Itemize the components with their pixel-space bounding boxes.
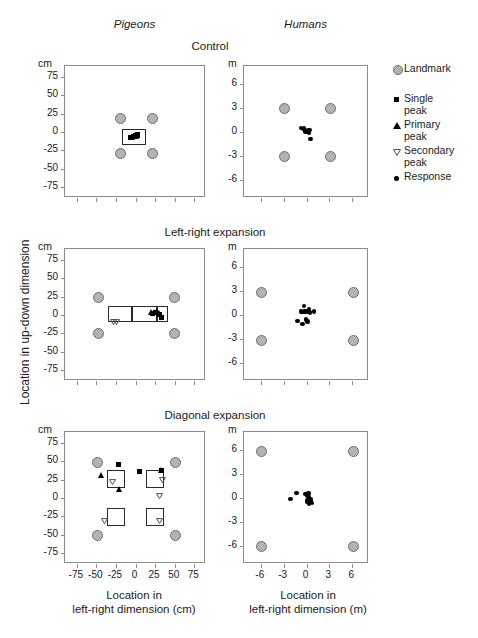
y-tick-pigeons-diagonal-expansion-2 bbox=[61, 480, 65, 481]
x-axis-title-left-line1: Location in bbox=[106, 589, 162, 601]
y-tick-pigeons-control-5 bbox=[61, 169, 65, 170]
x-tick-humans-diagonal-expansion-2 bbox=[307, 564, 308, 568]
response-marker-humans-left-right-expansion-12 bbox=[305, 319, 310, 324]
landmark-marker-humans-diagonal-expansion-3 bbox=[348, 541, 359, 552]
y-tick-label-pigeons-left-right-expansion-6: -75 bbox=[24, 364, 58, 374]
y-tick-label-pigeons-diagonal-expansion-5: -50 bbox=[24, 529, 58, 539]
landmark-marker-humans-diagonal-expansion-1 bbox=[348, 446, 359, 457]
column-title-pigeons: Pigeons bbox=[64, 18, 205, 30]
y-tick-pigeons-diagonal-expansion-0 bbox=[61, 443, 65, 444]
y-tick-label-pigeons-left-right-expansion-4: -25 bbox=[24, 327, 58, 337]
figure-root: Pigeons Humans Control Left-right expans… bbox=[0, 0, 478, 638]
x-axis-title-right-line1: Location in bbox=[280, 589, 336, 601]
y-tick-humans-control-0 bbox=[240, 84, 244, 85]
secondary-peak-marker-pigeons-diagonal-expansion-3 bbox=[101, 510, 108, 516]
response-marker-humans-diagonal-expansion-12 bbox=[310, 501, 315, 506]
y-tick-label-humans-control-2: 0 bbox=[203, 126, 237, 136]
legend-label-1-line2: peak bbox=[404, 104, 427, 116]
plot-panel-pigeons-left-right-expansion bbox=[64, 248, 205, 380]
y-tick-humans-left-right-expansion-3 bbox=[240, 339, 244, 340]
secondary-peak-marker-pigeons-diagonal-expansion-4 bbox=[156, 510, 163, 516]
y-tick-humans-diagonal-expansion-0 bbox=[240, 450, 244, 451]
x-tick-pigeons-control-0 bbox=[77, 198, 78, 202]
y-tick-pigeons-left-right-expansion-0 bbox=[61, 260, 65, 261]
x-tick-humans-diagonal-expansion-1 bbox=[284, 564, 285, 568]
landmark-marker-humans-left-right-expansion-2 bbox=[256, 335, 267, 346]
legend-label-3-line2: peak bbox=[404, 156, 427, 168]
response-marker-humans-control-10 bbox=[307, 131, 312, 136]
x-axis-title-right-line2: left-right dimension (m) bbox=[249, 603, 367, 615]
x-tick-humans-diagonal-expansion-0 bbox=[261, 564, 262, 568]
secondary-peak-marker-pigeons-diagonal-expansion-0 bbox=[109, 471, 116, 477]
x-tick-humans-control-4 bbox=[352, 198, 353, 202]
y-tick-pigeons-left-right-expansion-4 bbox=[61, 333, 65, 334]
y-tick-label-pigeons-control-5: -50 bbox=[24, 163, 58, 173]
legend-label-2-line2: peak bbox=[404, 130, 427, 142]
x-tick-pigeons-left-right-expansion-4 bbox=[155, 381, 156, 385]
x-tick-pigeons-diagonal-expansion-2 bbox=[116, 564, 117, 568]
y-tick-humans-diagonal-expansion-1 bbox=[240, 474, 244, 475]
y-tick-label-humans-diagonal-expansion-3: -3 bbox=[203, 516, 237, 526]
secondary-peak-marker-pigeons-diagonal-expansion-1 bbox=[159, 469, 166, 475]
landmark-marker-humans-diagonal-expansion-0 bbox=[256, 446, 267, 457]
legend: LandmarkSinglepeakPrimarypeakSecondarype… bbox=[392, 62, 478, 212]
y-tick-humans-diagonal-expansion-3 bbox=[240, 522, 244, 523]
x-tick-humans-control-2 bbox=[307, 198, 308, 202]
secondary-peak-marker-pigeons-left-right-expansion-1 bbox=[113, 311, 120, 317]
y-tick-pigeons-left-right-expansion-2 bbox=[61, 297, 65, 298]
legend-symbol-secondary-peak-triangle-icon bbox=[392, 145, 404, 157]
response-marker-humans-left-right-expansion-8 bbox=[312, 309, 317, 314]
landmark-marker-humans-control-3 bbox=[325, 151, 336, 162]
x-tick-humans-left-right-expansion-4 bbox=[352, 381, 353, 385]
y-tick-label-humans-control-3: -3 bbox=[203, 150, 237, 160]
landmark-marker-humans-left-right-expansion-3 bbox=[348, 335, 359, 346]
legend-label-2-line1: Primary bbox=[404, 118, 440, 130]
single-peak-marker-pigeons-left-right-expansion-3 bbox=[159, 315, 164, 320]
y-tick-label-humans-left-right-expansion-2: 0 bbox=[203, 309, 237, 319]
y-tick-humans-control-1 bbox=[240, 108, 244, 109]
unit-label-m-row2: m bbox=[228, 240, 237, 252]
column-title-humans: Humans bbox=[243, 18, 368, 30]
y-tick-pigeons-diagonal-expansion-5 bbox=[61, 535, 65, 536]
response-marker-humans-diagonal-expansion-1 bbox=[294, 491, 299, 496]
row-title-diagonal-expansion: Diagonal expansion bbox=[120, 409, 310, 421]
landmark-marker-humans-control-2 bbox=[279, 151, 290, 162]
plot-area-pigeons-control bbox=[65, 66, 204, 196]
y-tick-pigeons-control-3 bbox=[61, 132, 65, 133]
y-tick-label-pigeons-diagonal-expansion-0: 75 bbox=[24, 437, 58, 447]
unit-label-m-row3: m bbox=[228, 423, 237, 435]
legend-symbol-single-peak-square-icon bbox=[392, 93, 404, 105]
primary-peak-marker-pigeons-left-right-expansion-3 bbox=[156, 310, 162, 316]
landmark-marker-pigeons-diagonal-expansion-1 bbox=[170, 457, 181, 468]
legend-symbol-response-dot-icon bbox=[392, 171, 404, 183]
x-tick-pigeons-diagonal-expansion-5 bbox=[175, 564, 176, 568]
response-marker-humans-left-right-expansion-9 bbox=[295, 319, 300, 324]
x-tick-pigeons-control-4 bbox=[155, 198, 156, 202]
y-tick-label-humans-left-right-expansion-3: -3 bbox=[203, 333, 237, 343]
x-tick-pigeons-left-right-expansion-0 bbox=[77, 381, 78, 385]
single-peak-marker-pigeons-diagonal-expansion-1 bbox=[137, 469, 142, 474]
y-tick-label-pigeons-control-1: 50 bbox=[24, 89, 58, 99]
y-tick-pigeons-left-right-expansion-1 bbox=[61, 278, 65, 279]
landmark-marker-pigeons-diagonal-expansion-3 bbox=[170, 530, 181, 541]
y-tick-label-pigeons-diagonal-expansion-3: 0 bbox=[24, 492, 58, 502]
y-tick-humans-left-right-expansion-1 bbox=[240, 291, 244, 292]
y-tick-pigeons-diagonal-expansion-3 bbox=[61, 498, 65, 499]
y-tick-humans-diagonal-expansion-2 bbox=[240, 498, 244, 499]
y-tick-humans-diagonal-expansion-4 bbox=[240, 546, 244, 547]
y-tick-label-pigeons-left-right-expansion-5: -50 bbox=[24, 346, 58, 356]
landmark-marker-pigeons-left-right-expansion-0 bbox=[93, 292, 104, 303]
legend-label-3-line1: Secondary bbox=[404, 144, 454, 156]
x-tick-label-pigeons-diagonal-expansion-6: 75 bbox=[177, 570, 209, 580]
unit-label-cm-row1: cm bbox=[38, 57, 52, 69]
y-tick-label-humans-left-right-expansion-4: -6 bbox=[203, 357, 237, 367]
landmark-marker-humans-left-right-expansion-1 bbox=[348, 287, 359, 298]
plot-area-humans-diagonal-expansion bbox=[244, 432, 367, 562]
x-tick-pigeons-control-6 bbox=[194, 198, 195, 202]
x-tick-pigeons-diagonal-expansion-4 bbox=[155, 564, 156, 568]
y-tick-pigeons-diagonal-expansion-6 bbox=[61, 553, 65, 554]
y-tick-label-pigeons-diagonal-expansion-2: 25 bbox=[24, 474, 58, 484]
x-tick-humans-left-right-expansion-1 bbox=[284, 381, 285, 385]
y-tick-label-pigeons-control-6: -75 bbox=[24, 181, 58, 191]
legend-label-0-line1: Landmark bbox=[404, 62, 451, 74]
